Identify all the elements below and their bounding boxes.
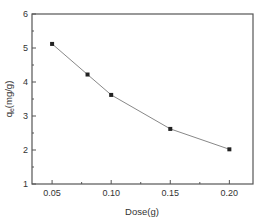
data-markers <box>50 42 231 151</box>
y-axis-label: qe(mg/g) <box>3 81 15 118</box>
data-point <box>86 73 90 77</box>
data-point <box>168 127 172 131</box>
y-tick-label: 6 <box>23 9 28 19</box>
y-tick-label: 1 <box>23 179 28 189</box>
x-tick-label: 0.05 <box>43 188 61 198</box>
y-tick-label: 5 <box>23 43 28 53</box>
plot-frame <box>32 14 253 184</box>
data-point <box>227 147 231 151</box>
y-tick-label: 2 <box>23 145 28 155</box>
line-chart: 123456 0.050.100.150.20 Dose(g) qe(mg/g) <box>0 0 263 224</box>
x-axis-ticks: 0.050.100.150.20 <box>43 180 238 198</box>
y-tick-label: 3 <box>23 111 28 121</box>
series-line <box>52 44 229 149</box>
x-tick-label: 0.15 <box>162 188 180 198</box>
y-axis-ticks: 123456 <box>23 9 36 189</box>
x-tick-label: 0.20 <box>221 188 239 198</box>
x-tick-label: 0.10 <box>102 188 120 198</box>
data-point <box>50 42 54 46</box>
data-point <box>109 93 113 97</box>
x-axis-label: Dose(g) <box>125 206 159 217</box>
y-tick-label: 4 <box>23 77 28 87</box>
